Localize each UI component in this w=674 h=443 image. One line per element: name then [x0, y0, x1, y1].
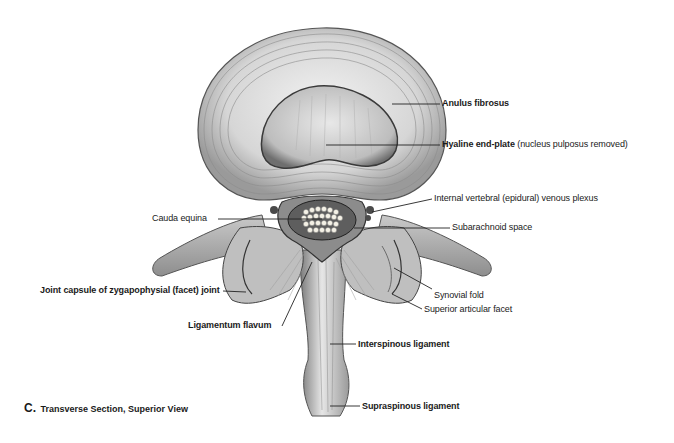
label-hyaline-end-plate: Hyaline end-plate (nucleus pulposus remo…	[442, 139, 628, 150]
label-interspinous-ligament: Interspinous ligament	[358, 339, 449, 350]
caption-letter: C.	[24, 401, 36, 415]
label-subarachnoid-space: Subarachnoid space	[452, 222, 532, 233]
spinous-process	[300, 250, 349, 416]
label-hyaline-end-plate-text: Hyaline end-plate	[442, 139, 515, 149]
label-cauda-equina: Cauda equina	[152, 213, 207, 224]
label-hyaline-end-plate-note: (nucleus pulposus removed)	[517, 139, 627, 149]
anatomy-illustration	[0, 0, 674, 443]
intervertebral-disc	[198, 28, 446, 200]
label-venous-plexus: Internal vertebral (epidural) venous ple…	[434, 193, 598, 204]
label-joint-capsule: Joint capsule of zygapophysial (facet) j…	[40, 285, 220, 296]
label-anulus-fibrosus: Anulus fibrosus	[442, 98, 509, 109]
label-supraspinous-ligament: Supraspinous ligament	[362, 401, 459, 412]
label-ligamentum-flavum: Ligamentum flavum	[188, 320, 271, 331]
caption-text: Transverse Section, Superior View	[41, 404, 188, 414]
label-superior-articular-facet: Superior articular facet	[424, 304, 512, 315]
figure-caption: C. Transverse Section, Superior View	[24, 401, 188, 415]
label-synovial-fold: Synovial fold	[434, 290, 484, 301]
